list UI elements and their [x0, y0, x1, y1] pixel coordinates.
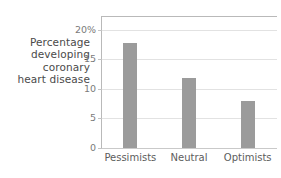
axis-baseline — [101, 148, 277, 149]
plot-frame-left-border — [101, 16, 102, 149]
y-tick-mark-10 — [98, 89, 102, 90]
y-tick-label-20: 20% — [36, 25, 96, 35]
y-tick-mark-15 — [98, 59, 102, 60]
y-tick-mark-5 — [98, 118, 102, 119]
y-tick-mark-0 — [98, 148, 102, 149]
bar-optimists[interactable] — [241, 101, 255, 148]
y-tick-label-10: 10 — [36, 84, 96, 94]
gridline-20 — [101, 30, 277, 31]
bar-pessimists[interactable] — [123, 43, 137, 148]
y-tick-label-0: 0 — [36, 143, 96, 153]
bar-neutral[interactable] — [182, 78, 196, 148]
y-tick-mark-20 — [98, 30, 102, 31]
y-tick-label-5: 5 — [36, 113, 96, 123]
y-axis-label-line-1: Percentage — [6, 36, 90, 48]
y-tick-label-15: 15 — [36, 54, 96, 64]
bar-chart-figure: Percentage developing coronary heart dis… — [0, 0, 281, 178]
plot-frame-top-border — [101, 16, 277, 17]
x-tick-label-optimists: Optimists — [208, 152, 281, 164]
